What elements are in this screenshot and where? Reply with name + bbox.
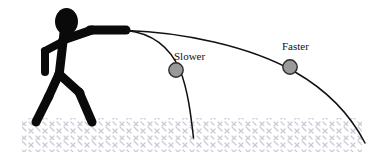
stick-figure-thrower [36,8,126,122]
figure-canvas: Slower Faster [0,0,373,161]
slower-projectile-ball [169,63,183,77]
trajectory-labels-group: Slower Faster [174,40,309,62]
slower-label: Slower [174,50,206,62]
faster-label: Faster [282,40,309,52]
faster-projectile-ball [283,60,297,74]
stick-figure-front-leg-shin [79,92,92,122]
physics-projectile-figure: Slower Faster [0,0,373,161]
